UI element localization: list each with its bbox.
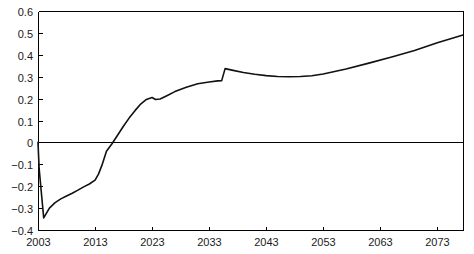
y-tick-label-2: −0.2 xyxy=(11,181,33,193)
x-tick-label-0: 2003 xyxy=(26,236,50,248)
x-tick-label-4: 2043 xyxy=(254,236,278,248)
y-tick-label-1: −0.3 xyxy=(11,203,33,215)
x-tick-label-2: 2023 xyxy=(140,236,164,248)
y-tick-label-8: 0.4 xyxy=(18,50,33,62)
x-tick-label-3: 2033 xyxy=(197,236,221,248)
x-tick-label-6: 2063 xyxy=(368,236,392,248)
y-tick-label-5: 0.1 xyxy=(18,116,33,128)
chart-background xyxy=(0,0,474,254)
x-tick-label-7: 2073 xyxy=(425,236,449,248)
y-tick-label-9: 0.5 xyxy=(18,28,33,40)
y-tick-label-4: 0 xyxy=(27,137,33,149)
y-tick-label-10: 0.6 xyxy=(18,6,33,18)
x-tick-label-5: 2053 xyxy=(311,236,335,248)
chart-container: −0.4−0.3−0.2−0.100.10.20.30.40.50.6 2003… xyxy=(0,0,474,254)
y-tick-label-6: 0.2 xyxy=(18,94,33,106)
line-chart: −0.4−0.3−0.2−0.100.10.20.30.40.50.6 2003… xyxy=(0,0,474,254)
y-tick-label-0: −0.4 xyxy=(11,225,33,237)
x-tick-label-1: 2013 xyxy=(83,236,107,248)
y-tick-label-3: −0.1 xyxy=(11,159,33,171)
y-tick-label-7: 0.3 xyxy=(18,72,33,84)
